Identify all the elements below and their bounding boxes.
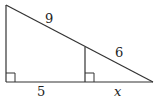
right-angle-marker-inner: [85, 73, 94, 82]
right-angle-marker-left: [6, 73, 15, 82]
label-5: 5: [37, 84, 45, 99]
label-6: 6: [115, 45, 123, 60]
label-x: x: [114, 84, 122, 99]
label-9: 9: [45, 11, 53, 26]
triangle-diagram: 9 6 5 x: [0, 0, 154, 99]
hypotenuse-line: [6, 5, 153, 82]
large-triangle: [6, 5, 153, 82]
